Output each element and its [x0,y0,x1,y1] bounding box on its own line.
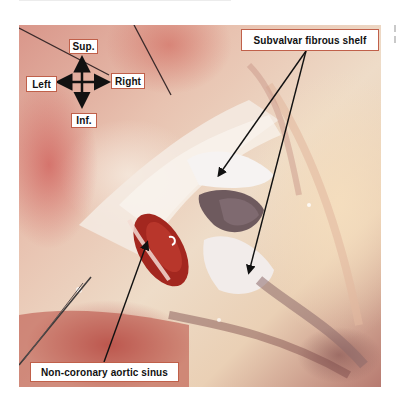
cropped-edge-text [394,25,397,45]
orientation-label-right: Right [111,73,145,89]
annotation-subvalvar-fibrous-shelf: Subvalvar fibrous shelf [241,29,379,51]
orientation-label-left: Left [26,76,57,92]
surgical-photo [19,25,381,387]
tissue-illustration [19,25,381,387]
top-divider [19,0,231,1]
annotation-non-coronary-aortic-sinus: Non-coronary aortic sinus [30,362,179,382]
orientation-label-superior: Sup. [69,39,98,54]
orientation-label-inferior: Inf. [71,113,97,128]
